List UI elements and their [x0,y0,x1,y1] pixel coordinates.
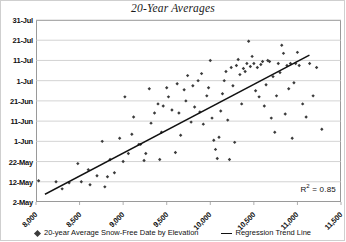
chart-figure: 20-Year Averages 2-May12-May22-May1-Jun1… [0,0,346,242]
scatter-point [297,64,300,67]
scatter-point [60,187,63,190]
scatter-point [101,140,104,143]
scatter-point [132,115,135,118]
scatter-point [242,67,245,70]
scatter-point [282,52,285,55]
scatter-point [231,84,234,87]
y-axis-tick-label: 1-Jun [0,137,33,146]
scatter-point [301,102,304,105]
scatter-point [182,88,185,91]
scatter-point [250,55,253,58]
scatter-point [177,111,180,114]
scatter-point [158,158,161,161]
scatter-point [230,66,233,69]
scatter-point [184,99,187,102]
y-axis-tick-label: 22-May [0,157,33,166]
scatter-point [235,64,238,67]
scatter-point [76,162,79,165]
scatter-point [280,44,283,47]
scatter-point [275,94,278,97]
scatter-point [273,131,276,134]
x-axis-tickmarks [36,202,341,205]
y-axis-tick-label: 11-Jun [0,117,33,126]
scatter-point [304,115,307,118]
y-axis-tick-label: 2-May [0,198,33,207]
y-axis-tick-label: 21-Jun [0,96,33,105]
scatter-point [245,62,248,65]
scatter-point [287,87,290,90]
scatter-point [209,59,212,62]
scatter-point [162,104,165,107]
regression-trend-line [46,55,309,194]
scatter-point [256,66,259,69]
scatter-point [315,66,318,69]
scatter-point [224,70,227,73]
scatter-point [207,86,210,89]
scatter-points-group [37,40,324,191]
scatter-point [191,84,194,87]
scatter-point [127,152,130,155]
diamond-marker-icon [34,229,41,236]
line-marker-icon [221,233,232,234]
scatter-point [113,171,116,174]
scatter-point [263,104,266,107]
scatter-point [202,122,205,125]
scatter-point [175,82,178,85]
scatter-point [252,62,255,65]
scatter-point [243,70,246,73]
scatter-point [221,92,224,95]
scatter-point [264,83,267,86]
scatter-point [292,81,295,84]
scatter-point [118,137,121,140]
gridlines-group [36,20,341,182]
y-axis-tick-label: 11-Jul [0,56,33,65]
scatter-point [153,111,156,114]
scatter-point [219,109,222,112]
scatter-point [214,148,217,151]
scatter-point [291,137,294,140]
y-axis-tick-label: 31-Jul [0,16,33,25]
scatter-point [259,63,262,66]
scatter-point [130,133,133,136]
scatter-point [200,72,203,75]
scatter-point [296,51,299,54]
scatter-point [167,95,170,98]
scatter-point [240,102,243,105]
scatter-point [257,95,260,98]
scatter-point [196,79,199,82]
scatter-point [277,62,280,65]
scatter-point [149,121,152,124]
scatter-point [80,180,83,183]
scatter-point [95,174,98,177]
y-axis-tick-label: 1-Jul [0,76,33,85]
plot-canvas [36,20,341,202]
legend-entry-scatter: 20-year Average Snow-Free Date by Elevat… [35,228,199,238]
legend-entry-trendline: Regression Trend Line [221,228,311,238]
y-axis-tick-label: 12-May [0,177,33,186]
scatter-point [205,94,208,97]
scatter-point [238,73,241,76]
scatter-point [210,116,213,119]
scatter-point [156,102,159,105]
chart-legend: 20-year Average Snow-Free Date by Elevat… [0,228,346,238]
scatter-point [216,157,219,160]
scatter-point [311,94,314,97]
scatter-point [174,151,177,154]
scatter-point [308,62,311,65]
scatter-point [270,116,273,119]
scatter-point [223,79,226,82]
scatter-point [249,65,252,68]
scatter-point [193,105,196,108]
scatter-point [165,86,168,89]
legend-label-scatter: 20-year Average Snow-Free Date by Elevat… [44,228,199,238]
scatter-point [254,89,257,92]
r-squared-annotation: R2 = 0.85 [300,183,336,194]
scatter-point [54,180,57,183]
scatter-point [217,136,220,139]
scatter-point [320,128,323,131]
scatter-point [106,175,109,178]
scatter-point [123,95,126,98]
scatter-point [121,160,124,163]
scatter-point [179,134,182,137]
scatter-point [88,183,91,186]
